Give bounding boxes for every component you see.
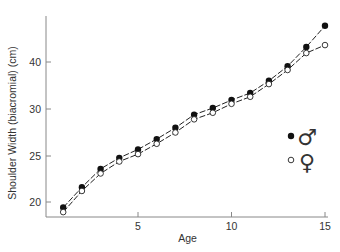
y-tick-label: 40 (29, 56, 41, 68)
female-marker (247, 94, 253, 100)
x-tick-label: 10 (226, 220, 238, 232)
y-axis-label: Shoulder Width (biacromial) (cm) (2, 28, 22, 218)
male-marker (322, 23, 328, 29)
male-marker (303, 44, 309, 50)
female-marker (266, 81, 272, 87)
female-marker (135, 151, 141, 157)
y-tick-label: 25 (29, 150, 41, 162)
y-axis-label-text: Shoulder Width (biacromial) (cm) (6, 46, 18, 199)
female-marker (154, 141, 160, 147)
x-tick-label: 5 (135, 220, 141, 232)
x-tick-label: 15 (319, 220, 331, 232)
legend-female-marker (288, 157, 294, 163)
female-symbol-icon: ♀ (299, 150, 315, 175)
female-marker (304, 50, 310, 56)
female-marker (117, 159, 123, 165)
legend: ♂♀ (288, 125, 317, 175)
male-symbol-icon: ♂ (297, 125, 317, 150)
chart-canvas: 2025304051015 ♂♀ (0, 0, 340, 252)
x-axis-label: Age (0, 232, 340, 244)
female-marker (210, 110, 216, 116)
y-tick-label: 30 (29, 103, 41, 115)
female-marker (285, 67, 291, 73)
female-marker (98, 171, 104, 177)
legend-male-marker (288, 133, 294, 139)
female-marker (191, 117, 197, 123)
female-marker (322, 42, 328, 48)
female-marker (79, 188, 85, 194)
female-marker (173, 130, 179, 136)
y-tick-label: 20 (29, 196, 41, 208)
female-marker (60, 209, 66, 215)
data-series (60, 23, 328, 215)
female-marker (229, 101, 235, 107)
